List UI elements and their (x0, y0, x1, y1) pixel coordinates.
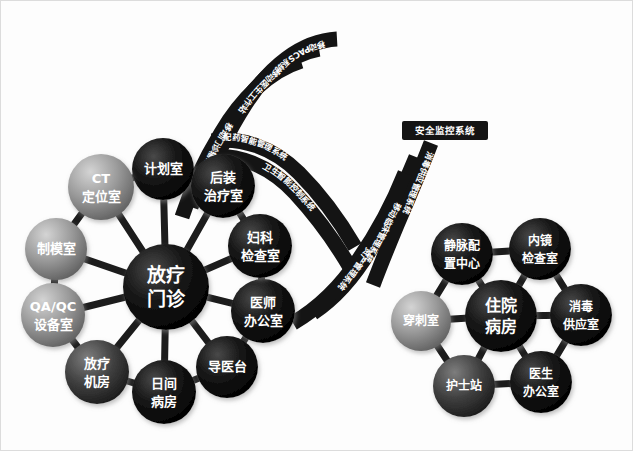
center-label-line1: 放疗 (146, 264, 185, 286)
node-doctors-office-label-2: 办公室 (523, 384, 559, 399)
node-day-ward-label-2: 病房 (151, 394, 177, 409)
node-nurse-station[interactable]: 护士站 (433, 355, 495, 417)
topology-diagram: 移动PACS系统 移动医生工作站 移动门诊输液系统 配药智能管理系统 卫生智能控… (1, 1, 633, 451)
node-iv-compound-label-2: 置中心 (444, 256, 480, 271)
node-endoscopy[interactable]: 内镜 检查室 (509, 218, 571, 280)
node-doctor-office[interactable]: 医师 办公室 (231, 279, 295, 343)
node-gyn-exam-label-1: 妇科 (246, 230, 273, 245)
node-puncture-room-label: 穿刺室 (403, 313, 439, 328)
ward-center-label-line1: 住院 (485, 296, 517, 315)
node-ct-locate[interactable]: CT 定位室 (68, 154, 134, 220)
node-rt-machine-label-1: 放疗 (83, 356, 110, 371)
node-guide-desk-label: 导医台 (208, 359, 247, 374)
node-radiotherapy-outpatient-center[interactable]: 放疗 门诊 (123, 244, 209, 330)
security-monitor-tag: 安全监控系统 (402, 121, 488, 140)
node-sterile-supply-label-2: 供应室 (562, 317, 599, 332)
node-sterile-supply[interactable]: 消毒 供应室 (550, 284, 612, 346)
node-mold-room[interactable]: 制模室 (25, 218, 87, 280)
node-qaqc-equipment-label-1: QA/QC (30, 299, 76, 314)
node-doctors-office[interactable]: 医生 办公室 (510, 351, 572, 413)
node-doctor-office-label-2: 办公室 (244, 313, 283, 328)
node-mold-room-label: 制模室 (37, 241, 76, 256)
node-brachytherapy[interactable]: 后装 治疗室 (191, 154, 255, 218)
node-gyn-exam[interactable]: 妇科 检查室 (228, 214, 292, 278)
node-puncture-room[interactable]: 穿刺室 (391, 291, 451, 351)
node-nurse-station-label: 护士站 (446, 378, 482, 393)
node-endoscopy-label-2: 检查室 (522, 251, 558, 266)
center-label-line2: 门诊 (147, 288, 186, 310)
node-inpatient-ward-center[interactable]: 住院 病房 (465, 280, 537, 352)
node-gyn-exam-label-2: 检查室 (241, 248, 280, 263)
node-rt-machine-label-2: 机房 (84, 374, 110, 389)
node-rt-machine[interactable]: 放疗 机房 (65, 340, 129, 404)
node-plan-room[interactable]: 计划室 (132, 138, 194, 200)
node-brachytherapy-label-1: 后装 (210, 170, 236, 185)
node-doctors-office-label-1: 医生 (529, 366, 553, 381)
node-day-ward-label-1: 日间 (151, 376, 177, 391)
node-day-ward[interactable]: 日间 病房 (132, 360, 196, 424)
node-ct-locate-label-1: CT (92, 171, 111, 186)
node-endoscopy-label-1: 内镜 (528, 233, 552, 248)
node-qaqc-equipment-label-2: 设备室 (34, 317, 73, 332)
ward-center-label-line2: 病房 (485, 317, 517, 336)
node-brachytherapy-label-2: 治疗室 (204, 188, 243, 203)
node-sterile-supply-label-1: 消毒 (569, 299, 593, 314)
node-plan-room-label: 计划室 (144, 161, 183, 176)
node-iv-compound-label-1: 静脉配 (444, 238, 480, 253)
node-ct-locate-label-2: 定位室 (81, 189, 121, 204)
diagram-canvas: 移动PACS系统 移动医生工作站 移动门诊输液系统 配药智能管理系统 卫生智能控… (0, 0, 633, 451)
security-monitor-tag-label: 安全监控系统 (415, 125, 475, 136)
left-cluster-nodes: 计划室 CT 定位室 制模室 QA/QC 设备室 放疗 机房 (21, 138, 295, 424)
node-iv-compound[interactable]: 静脉配 置中心 (431, 223, 493, 285)
node-qaqc-equipment[interactable]: QA/QC 设备室 (21, 283, 85, 347)
node-guide-desk[interactable]: 导医台 (196, 336, 258, 398)
node-doctor-office-label-1: 医师 (250, 295, 276, 310)
